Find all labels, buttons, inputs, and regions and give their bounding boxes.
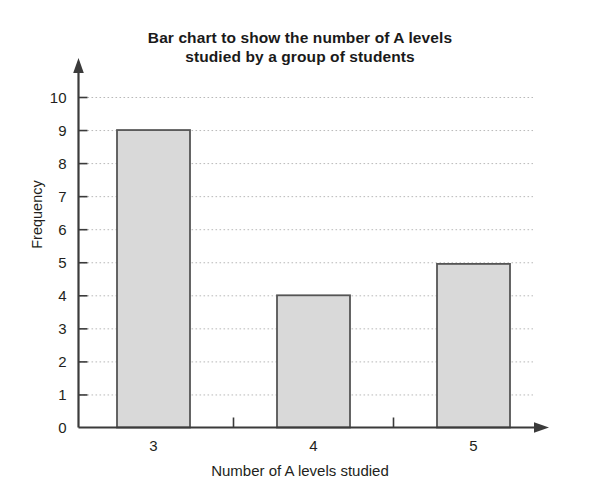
- bar-chart: Bar chart to show the number of A levels…: [0, 0, 595, 497]
- y-axis-tick-label: 10: [41, 90, 67, 105]
- bars: [117, 130, 510, 427]
- x-axis-arrowhead-icon: [534, 422, 549, 433]
- x-axis-tick-label: 5: [437, 438, 511, 454]
- x-axis-tick-label: 4: [277, 438, 351, 454]
- bar[interactable]: [437, 264, 510, 428]
- y-axis-ticks: [79, 98, 88, 395]
- y-axis-tick-label: 3: [41, 321, 67, 336]
- bar[interactable]: [277, 295, 350, 427]
- x-axis-tick-label: 3: [117, 438, 191, 454]
- y-axis-tick-label: 1: [41, 387, 67, 402]
- y-axis-tick-label: 9: [41, 123, 67, 138]
- x-axis-title: Number of A levels studied: [80, 462, 520, 479]
- y-axis-tick-label: 0: [41, 420, 67, 435]
- y-axis-arrowhead-icon: [73, 58, 84, 73]
- y-axis-tick-label: 2: [41, 354, 67, 369]
- plot-area: [0, 0, 595, 497]
- bar[interactable]: [117, 130, 190, 427]
- y-axis-tick-label: 4: [41, 288, 67, 303]
- y-axis-title: Frequency: [30, 160, 45, 270]
